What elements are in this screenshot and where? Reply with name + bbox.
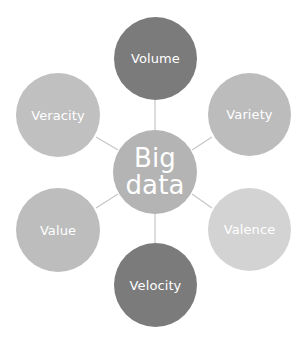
node-velocity: Velocity [114,243,197,327]
center-label: Big data [126,145,185,199]
node-label-veracity: Veracity [31,108,85,123]
node-label-value: Value [40,223,76,238]
node-value: Value [16,188,100,272]
node-label-volume: Volume [131,51,180,66]
node-volume: Volume [114,17,197,100]
node-valence: Valence [208,188,291,271]
node-label-valence: Valence [224,222,276,237]
node-label-variety: Variety [226,107,272,122]
center-node-big-data: Big data [113,130,197,214]
node-label-velocity: Velocity [130,278,182,293]
node-veracity: Veracity [16,73,100,157]
node-variety: Variety [208,73,291,156]
